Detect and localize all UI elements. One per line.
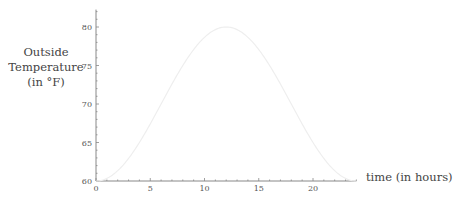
temperature-curve [96,27,356,181]
y-tick-label: 80 [82,23,92,32]
y-tick-label: 65 [82,139,92,148]
x-tick-label: 0 [93,184,98,193]
x-tick-label: 5 [148,184,153,193]
y-tick-label: 75 [82,62,92,71]
y-tick-label: 60 [82,177,92,186]
x-tick-label: 10 [199,184,209,193]
y-tick-label: 70 [82,100,92,109]
x-tick-label: 15 [254,184,264,193]
x-tick-label: 20 [308,184,318,193]
